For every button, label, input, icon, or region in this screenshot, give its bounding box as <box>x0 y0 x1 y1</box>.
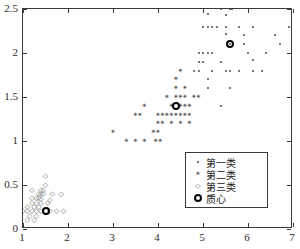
data-point-3-0 <box>226 40 234 48</box>
marker-star: ✴ <box>195 171 202 178</box>
data-point-2-29: ◇ <box>60 208 67 215</box>
data-point-1-2: ✴ <box>173 85 180 92</box>
data-point-1-27: ✴ <box>168 120 175 127</box>
data-point-0-2 <box>231 9 233 10</box>
data-point-0-11 <box>252 26 254 28</box>
y-tick-1.5 <box>23 97 27 98</box>
y-axis-label-1.5: 1.5 <box>0 90 18 102</box>
legend-item-2: ◇第三类 <box>190 180 263 192</box>
data-point-0-39 <box>229 87 231 89</box>
data-point-1-16: ✴ <box>137 111 144 118</box>
y-tick-2 <box>23 53 27 54</box>
y-tick-right-2.5 <box>287 9 291 10</box>
data-point-1-30: ✴ <box>110 129 117 136</box>
data-point-1-4: ✴ <box>164 94 171 101</box>
data-point-1-0: ✴ <box>177 67 184 74</box>
data-point-0-37 <box>207 78 209 80</box>
legend-marker-dot-icon <box>190 156 206 168</box>
x-tick-top-3 <box>113 9 114 13</box>
y-tick-right-2 <box>287 53 291 54</box>
data-point-1-3: ✴ <box>182 85 189 92</box>
data-point-0-28 <box>252 59 254 61</box>
y-axis-label-2: 2 <box>0 46 18 58</box>
data-point-0-3 <box>207 13 209 15</box>
x-tick-top-5 <box>203 9 204 13</box>
legend-label-3: 质心 <box>206 191 226 206</box>
data-point-0-40 <box>220 105 222 107</box>
data-point-1-1: ✴ <box>173 76 180 83</box>
data-point-0-7 <box>211 26 213 28</box>
y-tick-right-1 <box>287 141 291 142</box>
legend-marker-bold-circle-icon <box>190 192 206 204</box>
x-axis-label-6: 6 <box>244 231 250 243</box>
y-axis-label-1: 1 <box>0 134 18 146</box>
data-point-0-21 <box>207 52 209 54</box>
data-point-1-26: ✴ <box>159 120 166 127</box>
data-point-1-7: ✴ <box>182 94 189 101</box>
x-tick-top-7 <box>293 9 294 13</box>
data-point-0-4 <box>225 14 227 16</box>
y-axis-label-0.5: 0.5 <box>0 178 18 190</box>
data-point-0-10 <box>238 26 240 28</box>
data-point-0-20 <box>202 52 204 54</box>
data-point-3-1 <box>172 102 180 110</box>
data-point-0-27 <box>220 61 222 63</box>
y-axis-label-0: 0 <box>0 222 18 234</box>
data-point-0-15 <box>274 34 276 36</box>
x-tick-1 <box>23 223 24 227</box>
x-tick-top-6 <box>248 9 249 13</box>
data-point-1-35: ✴ <box>141 138 148 145</box>
data-point-1-28: ✴ <box>177 120 184 127</box>
data-point-0-6 <box>207 26 209 28</box>
x-tick-5 <box>203 223 204 227</box>
data-point-0-32 <box>225 70 227 72</box>
data-point-0-22 <box>211 52 213 54</box>
x-axis-label-7: 7 <box>289 231 295 243</box>
data-point-1-37: ✴ <box>157 138 164 145</box>
marker-centroid <box>194 194 202 202</box>
data-point-2-9: ◇ <box>58 190 65 197</box>
marker-dot <box>197 161 199 163</box>
legend-marker-diamond-icon: ◇ <box>190 180 206 192</box>
scatter-plot-figure: ✴✴✴✴✴✴✴✴✴✴✴✴✴✴✴✴✴✴✴✴✴✴✴✴✴✴✴✴✴✴✴✴✴✴✴✴✴✴◇◇… <box>0 0 300 249</box>
x-tick-4 <box>158 223 159 227</box>
y-tick-2.5 <box>23 9 27 10</box>
y-tick-1 <box>23 141 27 142</box>
data-point-2-0: ◇ <box>42 173 49 180</box>
data-point-0-25 <box>198 61 200 63</box>
marker-diamond: ◇ <box>195 183 202 190</box>
data-point-2-33: ◇ <box>31 217 38 224</box>
data-point-0-23 <box>247 52 249 54</box>
legend-box: 第一类✴第二类◇第三类质心 <box>185 152 268 208</box>
y-axis-label-2.5: 2.5 <box>0 2 18 14</box>
y-tick-right-1.5 <box>287 97 291 98</box>
data-point-0-36 <box>261 70 263 72</box>
data-point-0-8 <box>216 26 218 28</box>
data-point-2-18: ◇ <box>44 199 51 206</box>
data-point-0-31 <box>211 70 213 72</box>
data-point-1-34: ✴ <box>132 138 139 145</box>
data-point-0-34 <box>238 70 240 72</box>
data-point-3-2 <box>42 207 50 215</box>
data-point-0-24 <box>265 52 267 54</box>
data-point-0-26 <box>202 61 204 63</box>
x-tick-7 <box>293 223 294 227</box>
data-point-1-33: ✴ <box>123 138 130 145</box>
legend-marker-star-icon: ✴ <box>190 168 206 180</box>
data-point-1-14: ✴ <box>141 102 148 109</box>
data-point-1-9: ✴ <box>195 94 202 101</box>
data-point-0-38 <box>207 87 209 89</box>
legend-item-3: 质心 <box>190 192 263 204</box>
x-axis-label-5: 5 <box>199 231 205 243</box>
data-point-0-13 <box>225 33 227 35</box>
data-point-0-17 <box>243 43 245 45</box>
data-point-0-30 <box>198 70 200 72</box>
data-point-1-13: ✴ <box>186 102 193 109</box>
y-tick-0.5 <box>23 185 27 186</box>
data-point-0-0 <box>220 9 222 10</box>
x-tick-top-4 <box>158 9 159 13</box>
x-axis-label-3: 3 <box>109 231 115 243</box>
data-point-0-35 <box>252 70 254 72</box>
x-tick-3 <box>113 223 114 227</box>
data-point-0-14 <box>243 34 245 36</box>
